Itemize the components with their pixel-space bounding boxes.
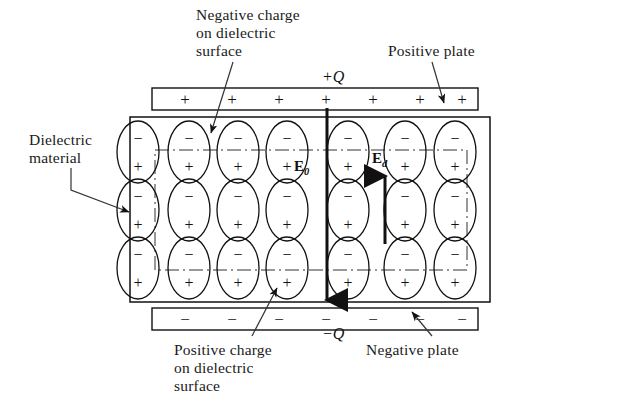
svg-text:+: +	[343, 158, 352, 175]
svg-text:−: −	[233, 130, 242, 147]
dipole: − +	[327, 121, 369, 183]
dipole: − +	[434, 121, 476, 183]
svg-text:+: +	[233, 216, 242, 233]
svg-text:−: −	[184, 246, 193, 263]
svg-text:−: −	[450, 130, 459, 147]
svg-text:−: −	[184, 188, 193, 205]
label-negative-charge: Negative charge on dielectric surface	[196, 6, 300, 60]
svg-text:−: −	[400, 130, 409, 147]
svg-text:−: −	[233, 188, 242, 205]
figure-canvas: + + + + + + + − − − − − − −	[0, 0, 620, 412]
svg-text:+: +	[400, 274, 409, 291]
svg-text:+: +	[343, 216, 352, 233]
dipole: − +	[217, 121, 259, 183]
svg-text:−: −	[133, 188, 142, 205]
svg-text:−: −	[282, 130, 291, 147]
svg-text:−: −	[184, 130, 193, 147]
label-negative-plate: Negative plate	[366, 341, 459, 359]
svg-text:+: +	[233, 274, 242, 291]
positive-plate-body	[152, 88, 478, 110]
leader-dielectric-material	[71, 168, 129, 212]
svg-text:−: −	[400, 246, 409, 263]
svg-text:+: +	[184, 158, 193, 175]
dipole: − +	[168, 237, 210, 299]
svg-text:+: +	[133, 274, 142, 291]
label-positive-plate: Positive plate	[388, 42, 475, 60]
svg-text:−: −	[450, 246, 459, 263]
svg-text:+: +	[400, 158, 409, 175]
svg-text:+: +	[227, 90, 237, 109]
label-dielectric-field-ed: Ed	[372, 150, 387, 169]
positive-plate: + + + + + + +	[152, 88, 478, 110]
negative-plate: − − − − − − −	[152, 308, 478, 330]
svg-text:+: +	[233, 158, 242, 175]
svg-text:−: −	[343, 246, 352, 263]
label-bottom-plate-charge: −Q	[322, 325, 344, 343]
svg-text:+: +	[450, 274, 459, 291]
svg-text:−: −	[368, 310, 378, 329]
svg-text:+: +	[133, 158, 142, 175]
dipole: − +	[168, 179, 210, 241]
svg-text:+: +	[450, 158, 459, 175]
svg-text:−: −	[457, 310, 467, 329]
svg-text:−: −	[233, 246, 242, 263]
dipole: − +	[117, 121, 159, 183]
svg-text:+: +	[184, 216, 193, 233]
svg-text:−: −	[450, 188, 459, 205]
svg-text:+: +	[282, 216, 291, 233]
svg-text:−: −	[282, 188, 291, 205]
label-positive-charge: Positive charge on dielectric surface	[174, 341, 272, 395]
dipole: − +	[117, 237, 159, 299]
e0-symbol: E	[294, 158, 304, 174]
svg-text:−: −	[180, 310, 190, 329]
svg-text:+: +	[180, 90, 190, 109]
svg-text:+: +	[184, 274, 193, 291]
svg-text:+: +	[321, 90, 331, 109]
ed-subscript: d	[382, 158, 387, 169]
dipole: − +	[327, 179, 369, 241]
dipole-grid: − + − + − + − +	[117, 121, 476, 299]
svg-text:+: +	[343, 274, 352, 291]
dipole: − +	[434, 179, 476, 241]
dipole: − +	[266, 179, 308, 241]
dipole: − +	[217, 179, 259, 241]
svg-text:+: +	[368, 90, 378, 109]
label-top-plate-charge: +Q	[322, 68, 344, 86]
negative-plate-body	[152, 308, 478, 330]
svg-text:−: −	[274, 310, 284, 329]
svg-text:+: +	[450, 216, 459, 233]
dipole-row: − + − + − + − +	[117, 237, 476, 299]
dielectric-inner-boundary	[155, 150, 467, 270]
svg-text:−: −	[133, 246, 142, 263]
dipole: − +	[168, 121, 210, 183]
label-dielectric-material: Dielectric material	[29, 131, 92, 167]
dipole: − +	[327, 237, 369, 299]
svg-text:−: −	[343, 130, 352, 147]
dipole: − +	[266, 237, 308, 299]
dipole: − +	[384, 179, 426, 241]
dipole: − +	[384, 237, 426, 299]
e0-subscript: 0	[304, 166, 309, 177]
svg-text:−: −	[133, 130, 142, 147]
svg-text:+: +	[282, 274, 291, 291]
ed-symbol: E	[372, 150, 382, 166]
label-applied-field-e0: E0	[294, 158, 309, 177]
dipole: − +	[217, 237, 259, 299]
svg-text:+: +	[282, 158, 291, 175]
dipole-row: − + − + − + − +	[117, 179, 476, 241]
svg-text:+: +	[415, 90, 425, 109]
svg-text:+: +	[274, 90, 284, 109]
dipole: − +	[434, 237, 476, 299]
svg-text:+: +	[457, 90, 467, 109]
svg-text:−: −	[227, 310, 237, 329]
svg-text:+: +	[133, 216, 142, 233]
dipole: − +	[384, 121, 426, 183]
svg-text:−: −	[282, 246, 291, 263]
dielectric-capacitor-figure: + + + + + + + − − − − − − −	[0, 0, 620, 412]
svg-text:−: −	[400, 188, 409, 205]
svg-text:+: +	[400, 216, 409, 233]
svg-text:−: −	[343, 188, 352, 205]
